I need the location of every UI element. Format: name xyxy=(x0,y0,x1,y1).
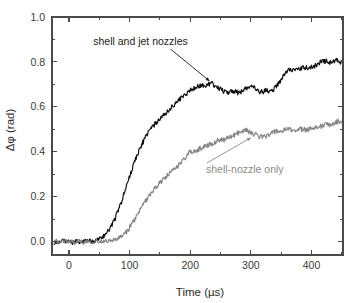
annotation-label-shell-nozzle-only: shell-nozzle only xyxy=(206,163,284,175)
y-tick-label: 1.0 xyxy=(30,11,45,23)
x-tick-label: 200 xyxy=(181,259,199,271)
x-tick-label: 0 xyxy=(66,259,72,271)
y-tick-label: 0.4 xyxy=(30,145,45,157)
y-tick-label: 0.8 xyxy=(30,56,45,68)
y-tick-label: 0.6 xyxy=(30,100,45,112)
line-chart: 01002003004000.00.20.40.60.81.0 shell an… xyxy=(0,0,355,303)
y-tick-label: 0.2 xyxy=(30,190,45,202)
x-tick-label: 300 xyxy=(242,259,260,271)
x-axis-title: Time (µs) xyxy=(176,286,225,298)
y-axis-title: Δφ (rad) xyxy=(4,109,16,152)
annotation-label-shell-and-jet-nozzles: shell and jet nozzles xyxy=(93,35,188,47)
x-tick-label: 100 xyxy=(121,259,139,271)
y-tick-label: 0.0 xyxy=(30,235,45,247)
x-tick-label: 400 xyxy=(303,259,321,271)
chart-figure: 01002003004000.00.20.40.60.81.0 shell an… xyxy=(0,0,355,303)
